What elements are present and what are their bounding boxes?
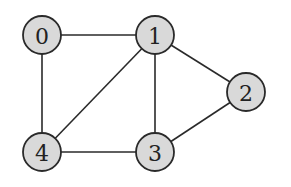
node-label: 1 xyxy=(148,24,162,49)
node-1: 1 xyxy=(136,16,174,54)
node-label: 2 xyxy=(239,81,253,106)
graph-diagram: 01234 xyxy=(0,0,291,187)
edge-1-4 xyxy=(42,35,155,152)
edges-group xyxy=(42,35,246,152)
node-label: 0 xyxy=(35,24,49,49)
nodes-group: 01234 xyxy=(23,16,265,171)
node-4: 4 xyxy=(23,133,61,171)
node-0: 0 xyxy=(23,16,61,54)
node-3: 3 xyxy=(136,133,174,171)
node-2: 2 xyxy=(227,73,265,111)
node-label: 3 xyxy=(148,141,162,166)
node-label: 4 xyxy=(35,141,49,166)
